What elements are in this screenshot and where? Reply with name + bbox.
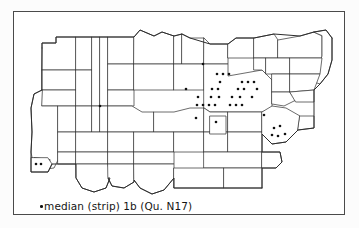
region-cr-lower-3 [204, 132, 228, 152]
survey-dot [40, 163, 43, 166]
map-caption: median (strip) 1b (Qu. N17) [40, 200, 192, 212]
survey-dot [241, 81, 244, 84]
survey-dot [99, 105, 102, 108]
survey-dot [216, 73, 219, 76]
survey-dot [202, 104, 205, 107]
region-cr-lower-2 [228, 112, 262, 132]
survey-dot [222, 73, 225, 76]
map-canvas [14, 12, 346, 216]
region-nw-col-b [100, 37, 108, 106]
survey-dot [210, 96, 213, 99]
region-ne-mid-3 [290, 58, 322, 74]
survey-dot [277, 135, 280, 138]
survey-dot [256, 88, 259, 91]
region-w-mid [42, 90, 76, 106]
survey-dot [284, 133, 287, 136]
region-n-block-1 [108, 37, 134, 64]
survey-dot [231, 96, 234, 99]
region-se-4 [224, 168, 262, 188]
region-cr-lower-4 [228, 132, 262, 152]
region-cl-3 [92, 106, 100, 132]
survey-dot [196, 104, 199, 107]
region-cl-4 [100, 106, 108, 132]
survey-dot [279, 125, 282, 128]
region-c-large [108, 106, 154, 132]
survey-dot [247, 81, 250, 84]
region-ne-low-1 [272, 74, 290, 92]
survey-dot [217, 88, 220, 91]
survey-dot [253, 81, 256, 84]
region-b-1 [76, 152, 108, 164]
region-nw-col-a [92, 37, 100, 106]
survey-dot [195, 117, 198, 120]
figure-page: median (strip) 1b (Qu. N17) [0, 0, 359, 228]
region-s-lobe-right [134, 164, 174, 194]
region-se-3 [174, 168, 224, 188]
survey-dot [219, 81, 222, 84]
region-w-upper [42, 70, 76, 90]
region-ne-low-2 [290, 74, 320, 92]
region-n-wide-2 [134, 64, 174, 90]
map-frame: median (strip) 1b (Qu. N17) [13, 11, 345, 215]
region-cr-small-box [210, 116, 226, 134]
survey-dot [35, 163, 38, 166]
region-ne-mid-2 [266, 58, 290, 74]
map-svg [14, 12, 346, 216]
region-w-tall-2 [76, 70, 92, 106]
survey-dot [241, 104, 244, 107]
region-ll-1 [58, 132, 76, 152]
survey-dot [185, 88, 188, 91]
region-nw-notch [42, 37, 76, 70]
region-ll-2 [76, 132, 108, 152]
region-ll-3 [108, 132, 134, 152]
region-cl-2 [76, 106, 92, 132]
region-cl-1 [58, 106, 76, 132]
legend-dot-icon [40, 205, 43, 208]
survey-dot [251, 96, 254, 99]
survey-dot [214, 104, 217, 107]
survey-dot [237, 88, 240, 91]
survey-dot [208, 104, 211, 107]
region-n-wide-1 [134, 30, 174, 64]
survey-dot [229, 104, 232, 107]
survey-dot [211, 88, 214, 91]
region-bl-pocket [58, 152, 76, 164]
region-c-mid [154, 108, 204, 132]
region-s-lobe-left [76, 164, 110, 192]
caption-text: median (strip) 1b (Qu. N17) [44, 200, 192, 212]
region-cr-top [204, 38, 228, 64]
region-east-diamond [262, 106, 300, 144]
survey-dot [271, 134, 274, 137]
survey-dot [243, 88, 246, 91]
survey-dot [239, 96, 242, 99]
region-n-strip [174, 34, 182, 64]
region-n-block-2 [108, 64, 134, 90]
region-w-tall-1 [76, 37, 92, 70]
survey-dot [218, 96, 221, 99]
survey-dot [263, 114, 266, 117]
region-b-2 [108, 152, 134, 164]
survey-dot [228, 73, 231, 76]
survey-dot [235, 104, 238, 107]
region-n-center-low [174, 64, 204, 90]
region-ll-5 [174, 132, 204, 152]
region-ll-4 [134, 132, 174, 152]
survey-dot [197, 96, 200, 99]
survey-dot [202, 63, 205, 66]
survey-dot [273, 127, 276, 130]
region-b-3 [134, 152, 174, 164]
survey-dot [215, 121, 218, 124]
region-se-1 [204, 152, 262, 168]
region-n-block-3 [108, 90, 134, 106]
